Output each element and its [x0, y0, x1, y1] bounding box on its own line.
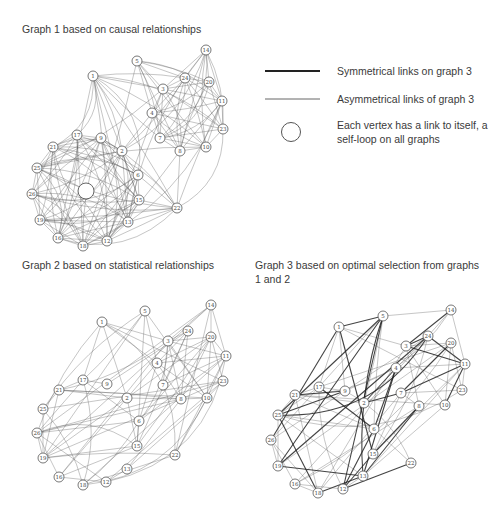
svg-text:14: 14 [208, 302, 215, 308]
legend-symbols [265, 71, 320, 142]
legend-self-loop-label: Each vertex has a link to itself, a self… [337, 118, 497, 146]
vertex-8: 8 [414, 401, 424, 411]
vertex-26: 26 [32, 428, 42, 438]
vertex-11: 11 [221, 351, 231, 361]
svg-text:24: 24 [425, 333, 432, 339]
legend-asymmetrical-label: Asymmetrical links of graph 3 [337, 92, 474, 106]
vertex-4: 4 [147, 108, 157, 118]
vertex-8: 8 [176, 394, 186, 404]
svg-text:24: 24 [185, 328, 192, 334]
svg-text:9: 9 [99, 135, 103, 141]
g2-edges [37, 305, 226, 485]
vertex-15: 15 [134, 195, 144, 205]
svg-text:12: 12 [104, 238, 111, 244]
vertex-20: 20 [446, 338, 456, 348]
vertex-19: 19 [35, 215, 45, 225]
vertex-3: 3 [401, 341, 411, 351]
legend-self-loop-icon [282, 123, 301, 142]
vertex-25: 25 [38, 404, 48, 414]
vertex-7: 7 [158, 380, 168, 390]
svg-text:22: 22 [174, 205, 181, 211]
vertex-17: 17 [72, 130, 82, 140]
svg-text:11: 11 [462, 361, 469, 367]
svg-text:26: 26 [268, 437, 275, 443]
vertex-13: 13 [123, 217, 133, 227]
svg-text:2: 2 [125, 395, 129, 401]
vertex-24: 24 [183, 326, 193, 336]
svg-text:20: 20 [208, 334, 215, 340]
svg-text:7: 7 [158, 135, 162, 141]
svg-text:10: 10 [203, 144, 210, 150]
vertex-12: 12 [102, 236, 112, 246]
svg-text:5: 5 [381, 313, 385, 319]
vertex-14: 14 [201, 45, 211, 55]
vertex-9: 9 [96, 133, 106, 143]
svg-text:24: 24 [182, 75, 189, 81]
vertex-1: 1 [334, 322, 344, 332]
svg-text:7: 7 [161, 382, 165, 388]
svg-text:19: 19 [40, 455, 47, 461]
vertex-4: 4 [391, 363, 401, 373]
vertex-23: 23 [218, 376, 228, 386]
svg-text:10: 10 [442, 402, 449, 408]
svg-text:16: 16 [55, 235, 62, 241]
svg-text:5: 5 [143, 308, 147, 314]
vertex-16: 16 [290, 479, 300, 489]
vertex-6: 6 [134, 416, 144, 426]
vertex-17: 17 [314, 382, 324, 392]
graph1-network: 1514242031142378101792122562615221913161… [27, 45, 228, 251]
vertex-2: 2 [359, 398, 369, 408]
svg-text:23: 23 [220, 126, 227, 132]
vertex-20: 20 [204, 77, 214, 87]
vertex-19: 19 [273, 461, 283, 471]
vertex-21: 21 [54, 385, 64, 395]
svg-text:9: 9 [343, 388, 347, 394]
svg-text:11: 11 [223, 353, 230, 359]
svg-text:4: 4 [150, 110, 154, 116]
vertex-11: 11 [460, 359, 470, 369]
svg-text:8: 8 [178, 148, 182, 154]
vertex-5: 5 [378, 311, 388, 321]
svg-text:4: 4 [155, 360, 159, 366]
vertex-24: 24 [423, 331, 433, 341]
vertex-22: 22 [172, 203, 182, 213]
vertex-8: 8 [175, 146, 185, 156]
svg-text:3: 3 [404, 343, 408, 349]
vertex-10: 10 [201, 142, 211, 152]
svg-text:10: 10 [204, 395, 211, 401]
vertex-21: 21 [290, 390, 300, 400]
svg-text:23: 23 [220, 378, 227, 384]
vertex-7: 7 [155, 133, 165, 143]
svg-text:2: 2 [362, 400, 366, 406]
svg-text:15: 15 [134, 443, 141, 449]
svg-text:20: 20 [206, 79, 213, 85]
svg-text:14: 14 [448, 307, 455, 313]
vertex-15: 15 [368, 449, 378, 459]
vertex-22: 22 [406, 458, 416, 468]
svg-text:11: 11 [219, 98, 226, 104]
svg-text:8: 8 [417, 403, 421, 409]
vertex-16: 16 [54, 472, 64, 482]
svg-text:19: 19 [37, 217, 44, 223]
svg-text:13: 13 [360, 473, 367, 479]
vertex-23: 23 [457, 385, 467, 395]
svg-text:22: 22 [172, 452, 179, 458]
svg-text:6: 6 [137, 418, 141, 424]
vertex-16: 16 [53, 233, 63, 243]
vertex-18: 18 [313, 488, 323, 498]
vertex-22: 22 [170, 450, 180, 460]
svg-text:20: 20 [448, 340, 455, 346]
svg-text:17: 17 [316, 384, 323, 390]
self-loop-marker [78, 183, 94, 199]
vertex-19: 19 [38, 453, 48, 463]
svg-text:3: 3 [161, 86, 165, 92]
svg-text:22: 22 [408, 460, 415, 466]
svg-text:12: 12 [103, 479, 110, 485]
vertex-9: 9 [102, 379, 112, 389]
vertex-26: 26 [27, 189, 37, 199]
svg-text:1: 1 [91, 73, 95, 79]
svg-text:6: 6 [136, 172, 140, 178]
vertex-10: 10 [202, 393, 212, 403]
svg-text:1: 1 [337, 324, 341, 330]
svg-text:16: 16 [292, 481, 299, 487]
